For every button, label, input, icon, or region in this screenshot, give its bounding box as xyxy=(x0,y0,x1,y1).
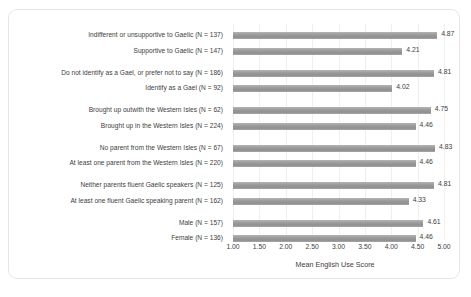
bar-row[interactable]: 4.61 xyxy=(229,218,441,229)
x-axis: Mean English Use Score 1.001.502.002.503… xyxy=(229,240,441,280)
bar-value-label: 4.75 xyxy=(435,106,448,113)
x-axis-title: Mean English Use Score xyxy=(229,260,441,269)
bar-row[interactable]: 4.33 xyxy=(229,196,441,207)
bar-row[interactable]: 4.21 xyxy=(229,46,441,57)
category-label: Female (N = 136) xyxy=(17,235,223,242)
x-axis-tick-label: 4.00 xyxy=(385,244,398,251)
chart-plot-wrapper: Indifferent or unsupportive to Gaelic (N… xyxy=(9,10,461,280)
bar[interactable] xyxy=(233,48,402,55)
bar-row[interactable]: 4.02 xyxy=(229,83,441,94)
plot-area: 4.874.214.814.024.754.464.834.464.814.33… xyxy=(229,10,441,240)
bar-row[interactable]: 4.87 xyxy=(229,30,441,41)
bar-row[interactable]: 4.83 xyxy=(229,143,441,154)
bar[interactable] xyxy=(233,70,434,77)
category-label: No parent from the Western Isles (N = 67… xyxy=(17,145,223,152)
x-axis-tick-label: 5.00 xyxy=(437,244,450,251)
bar-row[interactable]: 4.81 xyxy=(229,68,441,79)
bar[interactable] xyxy=(233,145,435,152)
bar-value-label: 4.87 xyxy=(441,31,454,38)
bar-row[interactable]: 4.46 xyxy=(229,158,441,169)
category-label-column: Indifferent or unsupportive to Gaelic (N… xyxy=(13,10,223,240)
chart-card: Indifferent or unsupportive to Gaelic (N… xyxy=(8,9,460,279)
x-axis-tick-label: 1.00 xyxy=(226,244,239,251)
bar[interactable] xyxy=(233,85,392,92)
bar-value-label: 4.81 xyxy=(438,69,451,76)
bar[interactable] xyxy=(233,160,416,167)
bar-row[interactable]: 4.46 xyxy=(229,121,441,132)
bar[interactable] xyxy=(233,220,423,227)
bar-value-label: 4.33 xyxy=(413,197,426,204)
bar[interactable] xyxy=(233,182,434,189)
bar-row[interactable]: 4.81 xyxy=(229,180,441,191)
x-axis-tick-label: 1.50 xyxy=(253,244,266,251)
bar[interactable] xyxy=(233,32,437,39)
category-label: Brought up in the Western Isles (N = 224… xyxy=(17,123,223,130)
x-axis-tick-label: 3.50 xyxy=(358,244,371,251)
bar-value-label: 4.81 xyxy=(438,181,451,188)
bar-value-label: 4.21 xyxy=(406,47,419,54)
category-label: At least one parent from the Western Isl… xyxy=(17,160,223,167)
category-label: Do not identify as a Gael, or prefer not… xyxy=(17,70,223,77)
bar[interactable] xyxy=(233,123,416,130)
category-label: Brought up outwith the Western Isles (N … xyxy=(17,107,223,114)
category-label: Identify as a Gael (N = 92) xyxy=(17,85,223,92)
category-label: Indifferent or unsupportive to Gaelic (N… xyxy=(17,32,223,39)
bar-value-label: 4.02 xyxy=(396,84,409,91)
bar-value-label: 4.61 xyxy=(427,219,440,226)
category-label: Supportive to Gaelic (N = 147) xyxy=(17,48,223,55)
x-axis-tick-label: 3.00 xyxy=(332,244,345,251)
bar-value-label: 4.83 xyxy=(439,144,452,151)
gridline xyxy=(444,24,445,240)
bar-row[interactable]: 4.75 xyxy=(229,105,441,116)
x-axis-tick-label: 4.50 xyxy=(411,244,424,251)
x-axis-tick-label: 2.50 xyxy=(306,244,319,251)
bar-value-label: 4.46 xyxy=(420,122,433,129)
bar-value-label: 4.46 xyxy=(420,159,433,166)
category-label: At least one fluent Gaelic speaking pare… xyxy=(17,198,223,205)
x-axis-tick-label: 2.00 xyxy=(279,244,292,251)
category-label: Neither parents fluent Gaelic speakers (… xyxy=(17,182,223,189)
category-label: Male (N = 157) xyxy=(17,220,223,227)
bar[interactable] xyxy=(233,198,409,205)
bar[interactable] xyxy=(233,107,431,114)
